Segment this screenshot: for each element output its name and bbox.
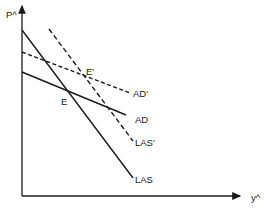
x-axis-label: y^ — [251, 193, 260, 203]
las-prime-curve — [49, 29, 133, 141]
point-e-label: E — [61, 97, 67, 107]
las-label: LAS — [135, 175, 153, 185]
diagram-canvas — [0, 0, 265, 222]
ad-curve — [22, 72, 126, 115]
ad-prime-curve — [22, 52, 130, 93]
las-curve — [22, 30, 133, 178]
point-e-prime-label: E' — [86, 67, 94, 77]
ad-label: AD — [135, 115, 148, 125]
ad-prime-label: AD' — [133, 89, 148, 99]
las-prime-label: LAS' — [135, 138, 155, 148]
y-axis-label: P^ — [6, 10, 17, 20]
